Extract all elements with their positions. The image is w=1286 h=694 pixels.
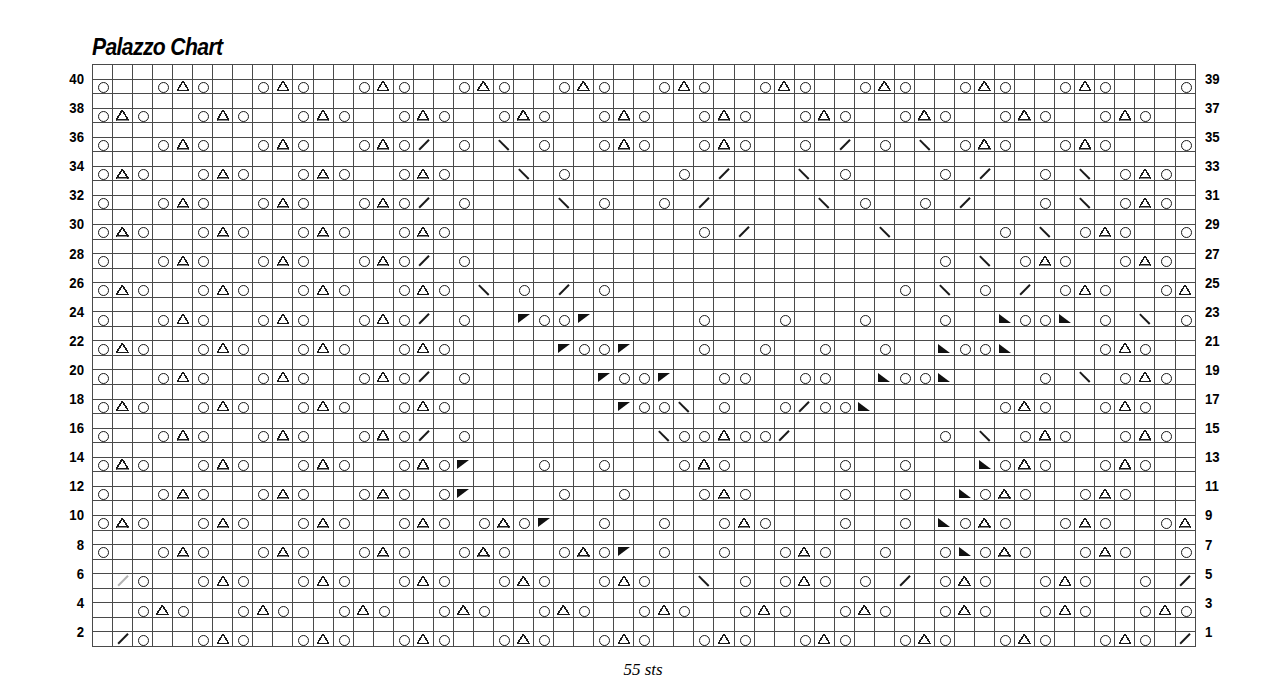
chart-cell bbox=[955, 225, 975, 240]
yarn-over-open-circle-icon bbox=[1055, 254, 1074, 268]
chart-cell bbox=[874, 297, 894, 312]
chart-cell bbox=[734, 137, 754, 152]
chart-cell bbox=[674, 166, 694, 181]
chart-cell bbox=[574, 399, 594, 414]
chart-cell bbox=[594, 239, 614, 254]
chart-cell bbox=[554, 239, 574, 254]
chart-cell bbox=[614, 530, 634, 545]
chart-cell bbox=[774, 545, 794, 560]
chart-cell bbox=[213, 428, 233, 443]
centered-double-decrease-open-triangle-icon bbox=[273, 429, 292, 443]
centered-double-decrease-open-triangle-icon bbox=[714, 487, 733, 501]
chart-row bbox=[93, 312, 1196, 327]
chart-cell bbox=[93, 326, 113, 341]
chart-cell bbox=[393, 312, 413, 327]
ssk-back-slash-icon bbox=[935, 283, 954, 297]
chart-cell bbox=[614, 297, 634, 312]
chart-cell bbox=[453, 399, 473, 414]
chart-cell bbox=[93, 341, 113, 356]
right-leaning-solid-triangle-icon bbox=[614, 545, 633, 559]
yarn-over-open-circle-icon bbox=[995, 138, 1014, 152]
chart-cell bbox=[473, 268, 493, 283]
yarn-over-open-circle-icon bbox=[1135, 574, 1154, 588]
chart-cell bbox=[213, 137, 233, 152]
chart-cell bbox=[1175, 370, 1195, 385]
yarn-over-open-circle-icon bbox=[935, 109, 954, 123]
chart-cell bbox=[153, 574, 173, 589]
chart-cell bbox=[93, 472, 113, 487]
chart-cell bbox=[574, 588, 594, 603]
chart-cell bbox=[93, 94, 113, 109]
chart-cell bbox=[714, 588, 734, 603]
yarn-over-open-circle-icon bbox=[835, 109, 854, 123]
chart-cell bbox=[393, 457, 413, 472]
chart-cell bbox=[995, 166, 1015, 181]
chart-cell bbox=[754, 195, 774, 210]
chart-cell bbox=[133, 312, 153, 327]
chart-cell bbox=[654, 414, 674, 429]
chart-cell bbox=[173, 472, 193, 487]
yarn-over-open-circle-icon bbox=[153, 370, 172, 384]
chart-cell bbox=[854, 457, 874, 472]
chart-cell bbox=[273, 428, 293, 443]
chart-cell bbox=[874, 137, 894, 152]
chart-cell bbox=[513, 559, 533, 574]
chart-cell bbox=[554, 210, 574, 225]
chart-cell bbox=[433, 545, 453, 560]
chart-cell bbox=[614, 414, 634, 429]
chart-cell bbox=[293, 632, 313, 647]
centered-double-decrease-open-triangle-icon bbox=[975, 138, 994, 152]
chart-cell bbox=[213, 603, 233, 618]
chart-cell bbox=[1115, 530, 1135, 545]
chart-cell bbox=[674, 108, 694, 123]
chart-cell bbox=[513, 515, 533, 530]
chart-cell bbox=[874, 268, 894, 283]
chart-cell bbox=[814, 501, 834, 516]
chart-cell bbox=[353, 210, 373, 225]
yarn-over-open-circle-icon bbox=[1155, 429, 1174, 443]
chart-cell bbox=[914, 603, 934, 618]
chart-cell bbox=[1015, 617, 1035, 632]
yarn-over-open-circle-icon bbox=[474, 516, 493, 530]
yarn-over-open-circle-icon bbox=[93, 341, 112, 355]
chart-cell bbox=[493, 225, 513, 240]
yarn-over-open-circle-icon bbox=[1176, 138, 1195, 152]
chart-cell bbox=[894, 195, 914, 210]
chart-cell bbox=[794, 166, 814, 181]
yarn-over-open-circle-icon bbox=[855, 196, 874, 210]
chart-cell bbox=[955, 545, 975, 560]
chart-cell bbox=[1095, 501, 1115, 516]
chart-cell bbox=[814, 239, 834, 254]
chart-cell bbox=[133, 515, 153, 530]
chart-cell bbox=[213, 94, 233, 109]
chart-cell bbox=[253, 530, 273, 545]
chart-cell bbox=[193, 588, 213, 603]
chart-cell bbox=[493, 574, 513, 589]
chart-cell bbox=[493, 210, 513, 225]
chart-cell bbox=[513, 268, 533, 283]
centered-double-decrease-open-triangle-icon bbox=[273, 545, 292, 559]
yarn-over-open-circle-icon bbox=[1095, 312, 1114, 326]
chart-cell bbox=[794, 210, 814, 225]
yarn-over-open-circle-icon bbox=[594, 545, 613, 559]
chart-cell bbox=[253, 515, 273, 530]
chart-cell bbox=[714, 268, 734, 283]
chart-cell bbox=[493, 195, 513, 210]
chart-cell bbox=[654, 603, 674, 618]
chart-cell bbox=[634, 152, 654, 167]
chart-cell bbox=[674, 399, 694, 414]
chart-cell bbox=[1015, 79, 1035, 94]
chart-cell bbox=[1135, 486, 1155, 501]
chart-cell bbox=[1135, 225, 1155, 240]
chart-cell bbox=[1155, 428, 1175, 443]
chart-cell bbox=[1055, 123, 1075, 138]
chart-cell bbox=[1135, 501, 1155, 516]
chart-cell bbox=[914, 137, 934, 152]
chart-cell bbox=[253, 225, 273, 240]
chart-cell bbox=[734, 123, 754, 138]
chart-cell bbox=[734, 326, 754, 341]
chart-cell bbox=[634, 166, 654, 181]
chart-cell bbox=[313, 152, 333, 167]
chart-cell bbox=[513, 239, 533, 254]
chart-cell bbox=[574, 545, 594, 560]
